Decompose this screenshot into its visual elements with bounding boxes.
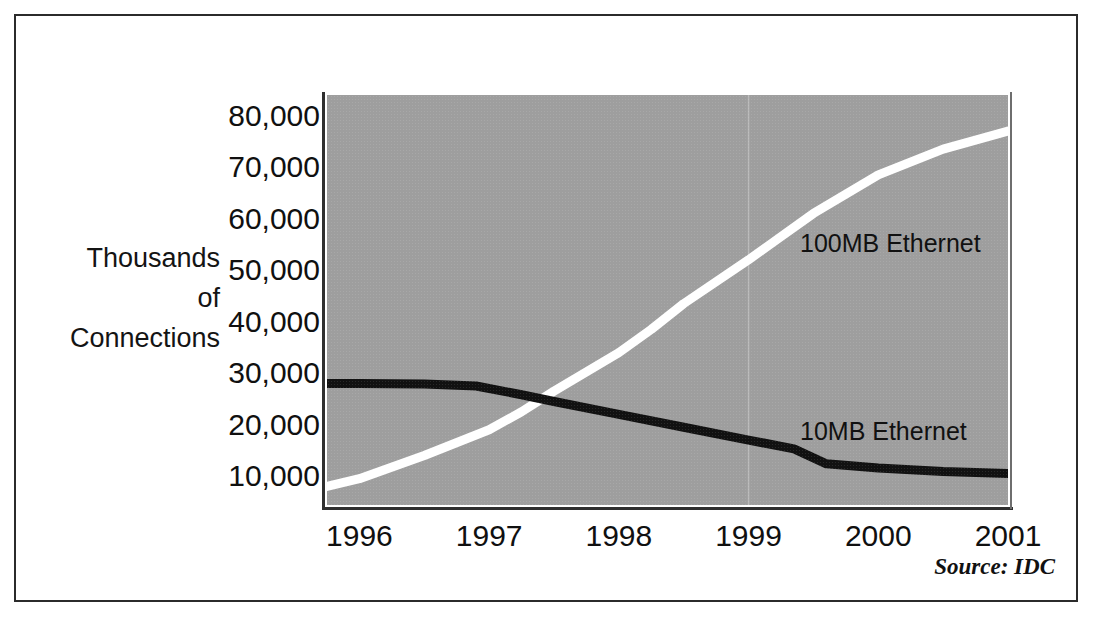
x-axis-tick-1996: 1996 bbox=[304, 519, 414, 553]
x-axis-tick-1997: 1997 bbox=[434, 519, 544, 553]
source-note: Source: IDC bbox=[934, 554, 1055, 580]
y-axis-line bbox=[322, 92, 325, 509]
x-axis-line bbox=[322, 507, 1013, 510]
series-label-10mb-ethernet: 10MB Ethernet bbox=[800, 419, 967, 444]
x-axis-tick-labels: 199619971998199920002001 bbox=[0, 519, 1093, 559]
x-axis-tick-2000: 2000 bbox=[823, 519, 933, 553]
y-axis-tick-20000: 20,000 bbox=[200, 410, 320, 440]
plot-right-border bbox=[1010, 92, 1012, 509]
x-axis-tick-1998: 1998 bbox=[564, 519, 674, 553]
y-axis-tick-50000: 50,000 bbox=[200, 255, 320, 285]
x-axis-tick-1999: 1999 bbox=[694, 519, 804, 553]
y-axis-caption-line-connections: Connections bbox=[35, 318, 220, 358]
y-axis-tick-70000: 70,000 bbox=[200, 152, 320, 182]
y-axis-tick-40000: 40,000 bbox=[200, 307, 320, 337]
y-axis-tick-30000: 30,000 bbox=[200, 358, 320, 388]
figure-page: Thousands of Connections 80,00070,00060,… bbox=[0, 0, 1093, 619]
x-axis-tick-2001: 2001 bbox=[953, 519, 1063, 553]
y-axis-tick-10000: 10,000 bbox=[200, 461, 320, 491]
y-axis-caption-line-thousands: Thousands bbox=[35, 238, 220, 278]
y-axis-caption-line-of: of bbox=[35, 278, 220, 318]
y-axis-tick-80000: 80,000 bbox=[200, 101, 320, 131]
series-label-100mb-ethernet: 100MB Ethernet bbox=[800, 231, 981, 256]
y-axis-tick-60000: 60,000 bbox=[200, 204, 320, 234]
y-axis-caption: Thousands of Connections bbox=[35, 238, 220, 358]
